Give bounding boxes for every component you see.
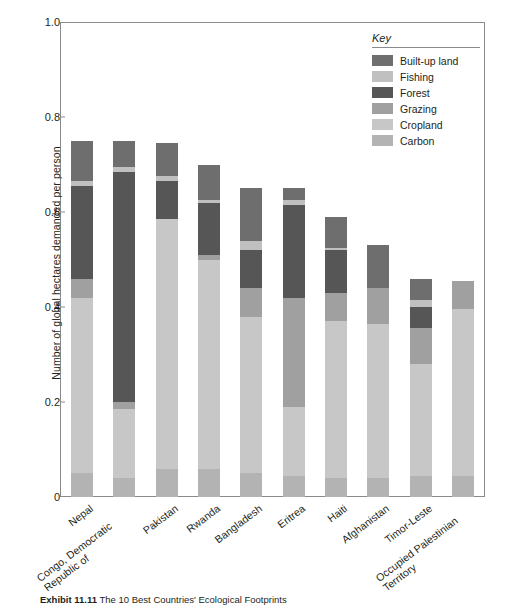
y-tick-label: 0.6 bbox=[26, 206, 60, 218]
bar-segment-built-up-land bbox=[410, 279, 432, 300]
bar-segment-grazing bbox=[240, 288, 262, 317]
bar-eritrea[interactable] bbox=[283, 188, 305, 497]
bar-segment-forest bbox=[156, 181, 178, 219]
legend-label: Forest bbox=[400, 87, 430, 99]
legend: Key Built-up landFishingForestGrazingCro… bbox=[372, 32, 482, 149]
x-axis-label-occupied-palestinian-territory: Occupied PalestinianTerritory bbox=[373, 502, 483, 593]
bar-segment-fishing bbox=[156, 176, 178, 181]
bar-segment-fishing bbox=[113, 167, 135, 172]
bar-segment-carbon bbox=[198, 469, 220, 498]
bar-segment-cropland bbox=[198, 260, 220, 469]
bar-segment-carbon bbox=[325, 478, 347, 497]
legend-item: Forest bbox=[372, 85, 482, 100]
x-axis-label-line: Territory bbox=[380, 512, 483, 594]
bar-segment-built-up-land bbox=[113, 141, 135, 167]
bar-timor-leste[interactable] bbox=[410, 279, 432, 498]
bar-nepal[interactable] bbox=[71, 141, 93, 497]
bar-haiti[interactable] bbox=[325, 217, 347, 497]
x-axis-label-line: Congo, Democratic bbox=[35, 502, 138, 584]
legend-item: Carbon bbox=[372, 133, 482, 148]
x-axis-label-bangladesh: Bangladesh bbox=[213, 502, 265, 545]
bar-segment-carbon bbox=[113, 478, 135, 497]
legend-label: Fishing bbox=[400, 71, 434, 83]
bar-segment-cropland bbox=[452, 309, 474, 475]
legend-label: Built-up land bbox=[400, 55, 458, 67]
x-axis-label-nepal: Nepal bbox=[66, 502, 95, 528]
chart-page: Number of global hectares demanded per p… bbox=[0, 0, 506, 606]
bar-congo-democratic-republic-of[interactable] bbox=[113, 141, 135, 497]
bar-segment-built-up-land bbox=[71, 141, 93, 181]
x-axis-label-eritrea: Eritrea bbox=[275, 502, 307, 530]
legend-title: Key bbox=[372, 32, 482, 44]
bar-segment-forest bbox=[71, 186, 93, 279]
x-axis-label-congo-democratic-republic-of: Congo, DemocraticRepublic of bbox=[35, 502, 145, 593]
bar-segment-built-up-land bbox=[283, 188, 305, 200]
legend-swatch-fishing bbox=[372, 71, 393, 82]
bar-segment-cropland bbox=[156, 219, 178, 468]
bar-segment-carbon bbox=[71, 473, 93, 497]
x-axis-label-afghanistan: Afghanistan bbox=[340, 502, 392, 545]
bar-segment-fishing bbox=[198, 200, 220, 202]
bar-segment-carbon bbox=[367, 478, 389, 497]
legend-label: Grazing bbox=[400, 103, 437, 115]
y-tick-label: 0.4 bbox=[26, 301, 60, 313]
x-axis-label-rwanda: Rwanda bbox=[184, 502, 222, 535]
bar-segment-cropland bbox=[325, 321, 347, 478]
bar-segment-forest bbox=[410, 307, 432, 328]
legend-divider bbox=[372, 47, 480, 48]
bar-segment-carbon bbox=[452, 476, 474, 497]
legend-item: Built-up land bbox=[372, 53, 482, 68]
y-tick-label: 0.8 bbox=[26, 111, 60, 123]
bar-segment-built-up-land bbox=[240, 188, 262, 240]
bar-segment-forest bbox=[325, 250, 347, 293]
caption-number: Exhibit 11.11 bbox=[40, 594, 97, 605]
x-axis-label-timor-leste: Timor-Leste bbox=[382, 502, 434, 545]
y-tick-label: 0.2 bbox=[26, 396, 60, 408]
legend-item: Grazing bbox=[372, 101, 482, 116]
bar-segment-grazing bbox=[198, 255, 220, 260]
y-axis: Number of global hectares demanded per p… bbox=[16, 22, 60, 497]
bar-segment-fishing bbox=[410, 300, 432, 307]
bar-segment-cropland bbox=[410, 364, 432, 476]
legend-swatch-built-up-land bbox=[372, 55, 393, 66]
bar-segment-grazing bbox=[452, 281, 474, 310]
legend-item: Fishing bbox=[372, 69, 482, 84]
bar-segment-forest bbox=[113, 172, 135, 402]
bar-segment-cropland bbox=[71, 298, 93, 474]
bar-segment-fishing bbox=[240, 241, 262, 251]
bar-segment-built-up-land bbox=[198, 165, 220, 201]
bar-segment-forest bbox=[283, 205, 305, 298]
bar-rwanda[interactable] bbox=[198, 165, 220, 498]
x-axis-label-haiti: Haiti bbox=[325, 502, 349, 524]
bar-segment-cropland bbox=[367, 324, 389, 478]
bar-segment-fishing bbox=[71, 181, 93, 186]
bar-segment-cropland bbox=[113, 409, 135, 478]
legend-swatch-forest bbox=[372, 87, 393, 98]
bar-segment-fishing bbox=[283, 200, 305, 205]
y-tick-label: 0 bbox=[26, 491, 60, 503]
bar-segment-grazing bbox=[410, 328, 432, 364]
bar-afghanistan[interactable] bbox=[367, 245, 389, 497]
bar-segment-cropland bbox=[240, 317, 262, 474]
bar-segment-built-up-land bbox=[156, 143, 178, 176]
legend-swatch-carbon bbox=[372, 135, 393, 146]
bar-occupied-palestinian-territory[interactable] bbox=[452, 281, 474, 497]
bar-segment-grazing bbox=[325, 293, 347, 322]
bar-bangladesh[interactable] bbox=[240, 188, 262, 497]
legend-items: Built-up landFishingForestGrazingCroplan… bbox=[372, 53, 482, 148]
bar-segment-carbon bbox=[283, 476, 305, 497]
figure-caption: Exhibit 11.11 The 10 Best Countries' Eco… bbox=[40, 594, 480, 605]
legend-item: Cropland bbox=[372, 117, 482, 132]
bar-segment-grazing bbox=[283, 298, 305, 407]
x-axis-label-line: Occupied Palestinian bbox=[373, 502, 476, 584]
bar-pakistan[interactable] bbox=[156, 143, 178, 497]
bar-segment-carbon bbox=[240, 473, 262, 497]
legend-label: Carbon bbox=[400, 135, 434, 147]
bar-segment-fishing bbox=[325, 248, 347, 250]
bar-segment-grazing bbox=[367, 288, 389, 324]
bar-segment-carbon bbox=[410, 476, 432, 497]
bar-segment-forest bbox=[240, 250, 262, 288]
bar-segment-grazing bbox=[113, 402, 135, 409]
bar-segment-carbon bbox=[156, 469, 178, 498]
legend-label: Cropland bbox=[400, 119, 443, 131]
